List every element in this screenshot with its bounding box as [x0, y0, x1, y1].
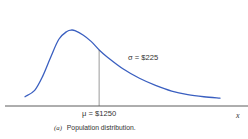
x-axis-label: x	[235, 111, 240, 120]
caption: (a) Population distribution.	[54, 124, 136, 132]
caption-text: Population distribution.	[67, 124, 136, 132]
mean-label: μ = $1250	[82, 109, 116, 118]
caption-label: (a)	[54, 124, 63, 132]
density-curve	[25, 30, 220, 98]
chart: σ = $225 μ = $1250 x (a) Population dist…	[0, 0, 248, 139]
sd-label: σ = $225	[128, 53, 158, 62]
